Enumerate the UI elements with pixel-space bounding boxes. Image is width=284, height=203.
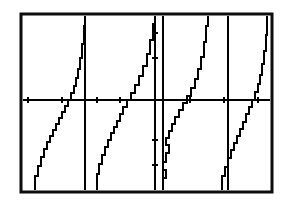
plot-background	[0, 0, 284, 203]
tangent-function-plot	[0, 0, 284, 203]
calculator-graph-screenshot	[0, 0, 284, 203]
